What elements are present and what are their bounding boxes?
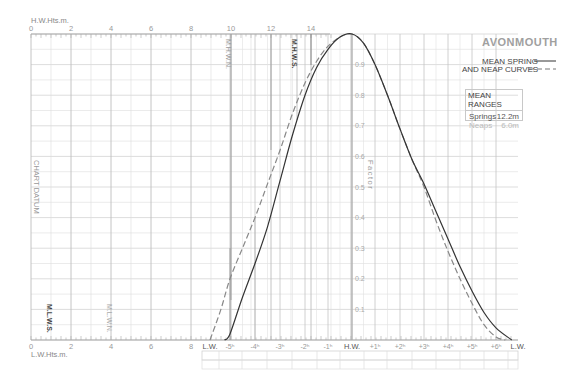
lw-heights-label: L.W.Hts.m. — [31, 350, 68, 359]
time-entry-row — [202, 351, 518, 360]
hw-tick-label: 6 — [149, 24, 153, 33]
port-title: AVONMOUTH — [482, 36, 558, 48]
factor-tick-label: 0.5 — [355, 184, 365, 191]
time-entry-row — [202, 360, 518, 369]
legend-line-2: AND NEAP CURVES — [462, 65, 538, 74]
chart-datum-label: CHART DATUM — [32, 160, 41, 214]
time-tick-label: +5ʰ — [467, 343, 478, 350]
hw-heights-label: H.W.Hts.m. — [31, 16, 69, 25]
hw-tick-label: 12 — [267, 24, 275, 33]
lw-tick-label: 8 — [189, 342, 193, 351]
time-tick-label: -1ʰ — [324, 343, 333, 350]
lw-tick-label: 2 — [69, 342, 73, 351]
hw-tick-label: 14 — [307, 24, 315, 33]
mhwn-label: M.H.W.N. — [225, 39, 232, 69]
hw-tick-label: 2 — [69, 24, 73, 33]
mlws-label: M.L.W.S. — [46, 304, 53, 333]
time-tick-label: +3ʰ — [419, 343, 430, 350]
time-tick-label: +4ʰ — [443, 343, 454, 350]
springs-value: 12.2m — [497, 112, 519, 121]
time-tick-label: +2ʰ — [395, 343, 406, 350]
neaps-value: 6.0m — [501, 121, 519, 130]
neaps-label: Neaps — [469, 121, 492, 130]
time-tick-label: L.W. — [202, 342, 217, 351]
mean-ranges-title: MEAN RANGES — [466, 90, 522, 111]
time-tick-label: L.W. — [510, 342, 525, 351]
time-tick-label: -2ʰ — [301, 343, 310, 350]
time-tick-label: H.W. — [344, 342, 360, 351]
lw-tick-label: 6 — [149, 342, 153, 351]
factor-tick-label: 0.9 — [355, 61, 365, 68]
mean-ranges-box: MEAN RANGES Springs 12.2m Neaps 6.0m — [465, 89, 523, 121]
factor-tick-label: 0.8 — [355, 92, 365, 99]
time-tick-label: -5ʰ — [226, 343, 235, 350]
neaps-range-row: Neaps 6.0m — [466, 121, 522, 130]
springs-label: Springs — [469, 112, 496, 121]
factor-tick-label: 0.7 — [355, 122, 365, 129]
factor-axis-label: Factor — [366, 160, 375, 190]
time-tick-label: -3ʰ — [276, 343, 285, 350]
mlwn-label: M.L.W.N. — [106, 304, 113, 333]
factor-tick-label: 0.6 — [355, 153, 365, 160]
factor-tick-label: 0.1 — [355, 306, 365, 313]
lw-tick-label: 4 — [109, 342, 113, 351]
time-tick-label: -4ʰ — [251, 343, 260, 350]
hw-tick-label: 4 — [109, 24, 113, 33]
time-tick-label: +1ʰ — [370, 343, 381, 350]
factor-tick-label: 0.3 — [355, 245, 365, 252]
hw-tick-label: 10 — [227, 24, 235, 33]
time-tick-label: +6ʰ — [491, 343, 502, 350]
springs-range-row: Springs 12.2m — [466, 111, 522, 121]
hw-tick-label: 0 — [29, 24, 33, 33]
factor-tick-label: 0.2 — [355, 275, 365, 282]
factor-tick-label: 0.4 — [355, 214, 365, 221]
hw-tick-label: 8 — [189, 24, 193, 33]
